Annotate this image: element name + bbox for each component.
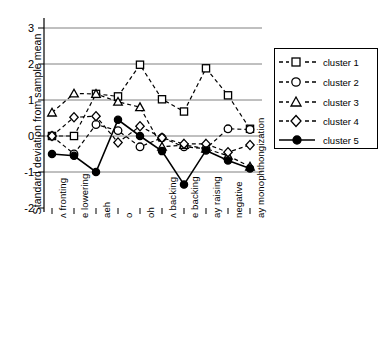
- x-tick-label: negative: [233, 181, 244, 218]
- x-tick-label: ʌ backing: [167, 177, 178, 218]
- legend-label: cluster 1: [321, 57, 359, 68]
- chart-figure: Standard deviation from sample mean -2-1…: [0, 0, 390, 347]
- legend-symbol-circle: [275, 73, 321, 91]
- data-point-square: [136, 61, 143, 68]
- data-point-filled-circle: [158, 148, 165, 155]
- data-point-diamond: [246, 140, 254, 149]
- legend-item-cluster-1[interactable]: cluster 1: [275, 52, 379, 72]
- data-point-square: [224, 92, 231, 99]
- data-point-diamond: [136, 122, 144, 131]
- y-tick-label: -1: [24, 166, 34, 178]
- data-point-circle: [114, 127, 122, 135]
- data-point-square: [70, 132, 77, 139]
- legend-item-cluster-3[interactable]: cluster 3: [275, 92, 379, 112]
- series-line: [52, 94, 250, 167]
- x-tick-label: e lowering: [79, 174, 90, 218]
- x-tick-label: oh: [145, 207, 156, 218]
- y-tick-label: 2: [28, 58, 34, 70]
- y-tick-label: -2: [24, 202, 34, 214]
- data-point-triangle: [48, 108, 57, 116]
- legend-item-cluster-2[interactable]: cluster 2: [275, 72, 379, 92]
- x-tick-label: e backing: [189, 176, 200, 218]
- legend-label: cluster 2: [321, 77, 359, 88]
- legend-item-cluster-4[interactable]: cluster 4: [275, 111, 379, 131]
- data-point-filled-circle: [92, 168, 99, 175]
- legend-label: cluster 3: [321, 97, 359, 108]
- x-tick-label: aeh: [101, 202, 112, 218]
- legend-item-cluster-5[interactable]: cluster 5: [275, 130, 379, 150]
- data-point-diamond: [224, 148, 232, 157]
- legend-symbol-square: [275, 53, 321, 71]
- y-tick-label: 3: [28, 22, 34, 34]
- data-point-circle: [136, 143, 144, 151]
- legend-symbol-triangle: [275, 93, 321, 111]
- data-point-filled-circle: [48, 150, 55, 157]
- data-point-square: [180, 108, 187, 115]
- data-point-filled-circle: [246, 165, 253, 172]
- data-point-filled-circle: [224, 157, 231, 164]
- legend-label: cluster 5: [321, 135, 359, 146]
- data-point-circle: [224, 125, 232, 133]
- series-markers-cluster-4: [48, 112, 254, 157]
- series-cluster-3: [52, 94, 250, 167]
- data-point-filled-circle: [114, 116, 121, 123]
- data-point-triangle: [70, 89, 79, 97]
- data-point-square: [158, 96, 165, 103]
- data-point-filled-circle: [70, 152, 77, 159]
- y-tick-label: 1: [28, 94, 34, 106]
- data-point-filled-circle: [202, 147, 209, 154]
- data-point-diamond: [92, 112, 100, 121]
- x-tick-label: ay raising: [211, 176, 222, 218]
- data-point-square: [202, 65, 209, 72]
- y-tick-label: 0: [28, 130, 34, 142]
- data-point-filled-circle: [136, 132, 143, 139]
- x-tick-label: ay monophthongization: [255, 118, 266, 218]
- legend: cluster 1 cluster 2 cluster 3: [274, 48, 378, 149]
- data-point-filled-circle: [180, 181, 187, 188]
- x-tick-label: o: [123, 213, 134, 218]
- data-point-circle: [246, 126, 254, 134]
- legend-symbol-filled-circle: [275, 131, 321, 149]
- x-tick-label: ʌ fronting: [57, 178, 68, 218]
- legend-symbol-diamond: [275, 112, 321, 130]
- legend-label: cluster 4: [321, 116, 359, 127]
- data-point-circle: [92, 121, 100, 129]
